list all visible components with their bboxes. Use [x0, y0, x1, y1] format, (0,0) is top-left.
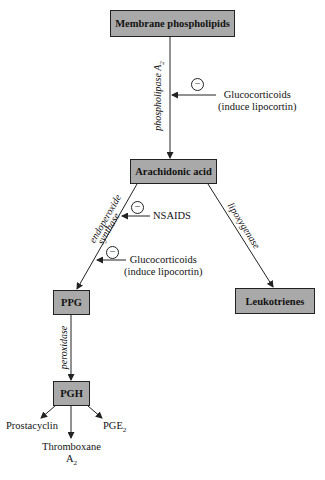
enzyme-phospholipase-a2: phospholipase A2 [152, 61, 166, 131]
inhibition-icon: − [191, 78, 204, 91]
enzyme-peroxidase: peroxidase [58, 326, 69, 370]
node-ppg: PPG [53, 290, 90, 315]
inhibition-icon: − [106, 246, 119, 259]
product-thromboxane-a2: Thromboxane A2 [42, 441, 101, 469]
node-membrane-phospholipids: Membrane phospholipids [110, 10, 235, 37]
node-arachidonic-acid: Arachidonic acid [130, 159, 217, 184]
product-prostacyclin: Prostacyclin [6, 420, 58, 432]
inhibition-icon: − [131, 201, 144, 214]
node-pgh: PGH [53, 381, 90, 406]
node-leukotrienes: Leukotrienes [235, 288, 315, 314]
inhibitor-glucocorticoids-2: Glucocorticoids (induce lipocortin) [124, 254, 202, 278]
product-pge2: PGE2 [103, 420, 126, 436]
inhibitor-nsaids: NSAIDS [153, 210, 191, 222]
inhibitor-glucocorticoids-1: Glucocorticoids (induce lipocortin) [218, 89, 296, 113]
